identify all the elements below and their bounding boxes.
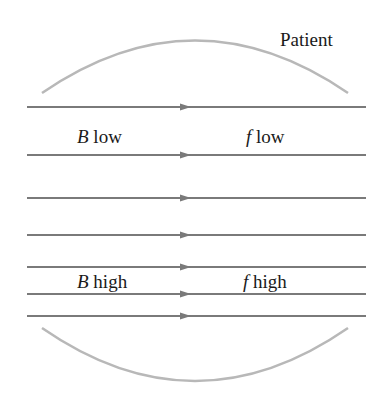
f-low-label: f low	[246, 127, 285, 146]
f-high-label: f high	[243, 272, 287, 291]
arrow-right-icon	[180, 104, 191, 111]
magnetic-field-diagram	[0, 0, 388, 406]
arrow-right-icon	[180, 313, 191, 320]
b-low-label: B low	[77, 127, 122, 146]
arrow-right-icon	[180, 291, 191, 298]
patient-label: Patient	[280, 30, 333, 49]
patient-bottom-arc	[42, 328, 348, 381]
b-high-label: B high	[77, 272, 127, 291]
arrow-right-icon	[180, 195, 191, 202]
arrow-right-icon	[180, 264, 191, 271]
b-variable: B	[77, 271, 89, 292]
arrow-right-icon	[180, 152, 191, 159]
b-variable: B	[77, 126, 89, 147]
arrow-right-icon	[180, 232, 191, 239]
